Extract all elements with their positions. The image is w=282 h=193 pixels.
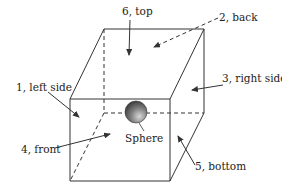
label-left: 1, left side — [16, 81, 72, 93]
sphere — [125, 101, 147, 123]
label-top: 6, top — [122, 5, 153, 17]
cube-diagram: 6, top 2, back 1, left side 3, right sid… — [0, 0, 282, 193]
left-arrow — [48, 92, 79, 117]
back-arrow — [154, 18, 218, 47]
right-face-edges — [170, 29, 204, 181]
right-arrow — [192, 85, 223, 90]
front-arrow — [55, 134, 110, 148]
label-back: 2, back — [219, 11, 258, 23]
label-front: 4, front — [21, 143, 61, 155]
label-sphere: Sphere — [125, 132, 163, 144]
label-right: 3, right side — [222, 72, 282, 84]
top-arrow — [129, 20, 130, 55]
top-face-edges — [70, 29, 204, 99]
sphere-leader — [139, 123, 144, 131]
label-bottom: 5, bottom — [195, 160, 246, 172]
